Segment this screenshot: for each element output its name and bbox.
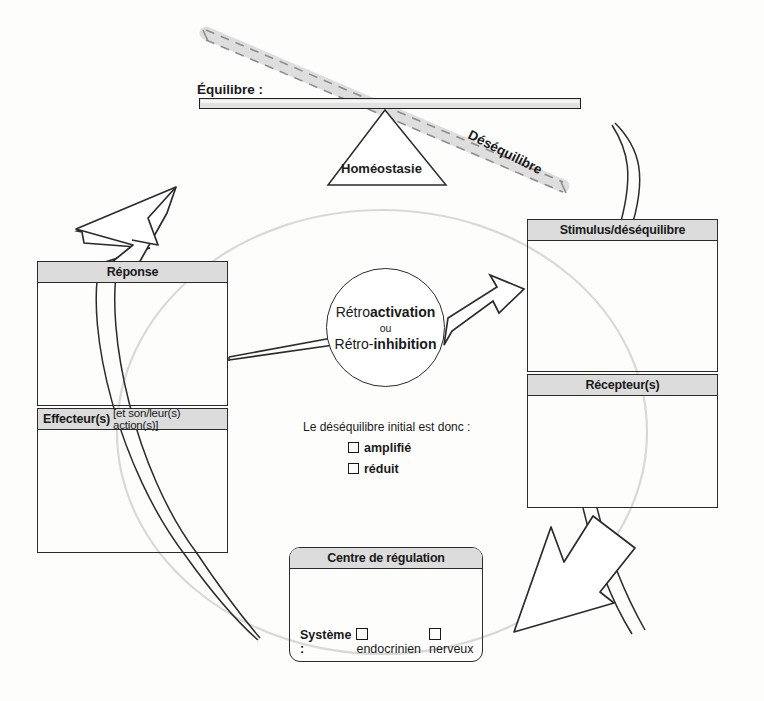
systeme-row: Système : endocrinien nerveux <box>300 628 482 656</box>
question-block: Le déséquilibre initial est donc : ampli… <box>303 420 470 476</box>
box-effecteur-header: Effecteur(s) [et son/leur(s) action(s)] <box>38 409 227 430</box>
box-effecteur-title: Effecteur(s) <box>43 412 110 426</box>
checkbox-reduit-icon[interactable] <box>348 463 359 474</box>
checkbox-amplifie-icon[interactable] <box>348 442 359 453</box>
circle-line2: ou <box>380 322 392 334</box>
box-effecteur[interactable]: Effecteur(s) [et son/leur(s) action(s)] <box>37 408 228 553</box>
box-stimulus-title: Stimulus/déséquilibre <box>560 223 686 237</box>
circle-line1-prefix: Rétro <box>336 304 370 320</box>
box-reponse[interactable]: Réponse <box>37 261 228 406</box>
circle-line3-prefix: Rétro- <box>335 336 374 352</box>
checkbox-nerveux-icon[interactable] <box>429 628 441 640</box>
box-reponse-title: Réponse <box>107 265 158 279</box>
question-option-reduit-label: réduit <box>364 462 399 476</box>
systeme-option-nerveux[interactable]: nerveux <box>429 628 474 656</box>
systeme-label: Système : <box>300 628 351 656</box>
box-effecteur-body[interactable] <box>38 430 227 552</box>
box-centre-title: Centre de régulation <box>327 551 445 565</box>
box-centre-body[interactable]: Système : endocrinien nerveux <box>290 569 482 661</box>
systeme-option-nerveux-label: nerveux <box>429 642 473 656</box>
systeme-option-endocrinien-label: endocrinien <box>356 642 421 656</box>
box-recepteur-body[interactable] <box>528 396 717 507</box>
box-stimulus-body[interactable] <box>528 241 717 371</box>
diagram-canvas: Équilibre : Homéostasie Déséquilibre <box>0 0 764 701</box>
box-centre-header: Centre de régulation <box>290 548 482 569</box>
question-option-reduit[interactable]: réduit <box>348 462 470 476</box>
box-reponse-body[interactable] <box>38 283 227 405</box>
retroaction-circle[interactable]: Rétroactivation ou Rétro-inhibition <box>326 268 445 387</box>
question-option-amplifie[interactable]: amplifié <box>348 441 470 455</box>
circle-line3-bold: inhibition <box>373 336 436 352</box>
checkbox-endocrinien-icon[interactable] <box>356 628 368 640</box>
systeme-option-endocrinien[interactable]: endocrinien <box>356 628 421 656</box>
box-effecteur-subtitle: [et son/leur(s) action(s)] <box>113 407 227 431</box>
box-recepteur[interactable]: Récepteur(s) <box>527 374 718 508</box>
question-prompt: Le déséquilibre initial est donc : <box>303 420 470 434</box>
box-recepteur-title: Récepteur(s) <box>585 378 659 392</box>
box-centre-regulation[interactable]: Centre de régulation Système : endocrini… <box>289 547 483 662</box>
circle-line1-bold: activation <box>370 304 435 320</box>
question-option-amplifie-label: amplifié <box>364 441 411 455</box>
box-stimulus[interactable]: Stimulus/déséquilibre <box>527 219 718 372</box>
circle-line1: Rétroactivation <box>336 304 436 320</box>
circle-line3: Rétro-inhibition <box>335 336 437 352</box>
box-stimulus-header: Stimulus/déséquilibre <box>528 220 717 241</box>
box-recepteur-header: Récepteur(s) <box>528 375 717 396</box>
box-reponse-header: Réponse <box>38 262 227 283</box>
